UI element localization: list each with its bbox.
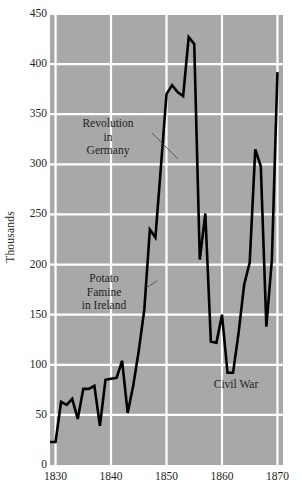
x-axis-tick-labels: 18301840185018601870 <box>0 471 302 491</box>
annotation-civil-war: Civil War <box>196 378 276 392</box>
x-axis-tick-label: 1870 <box>255 471 299 483</box>
annotation-line: in <box>62 131 154 145</box>
immigration-line-chart: Thousands 050100150200250300350400450 18… <box>0 0 302 501</box>
plot-area <box>0 0 302 501</box>
x-axis-tick-label: 1840 <box>89 471 133 483</box>
annotation-line: Germany <box>62 144 154 158</box>
x-axis-tick-label: 1830 <box>34 471 78 483</box>
annotation-line: in Ireland <box>58 299 150 313</box>
annotation-line: Civil War <box>196 378 276 392</box>
annotation-line: Famine <box>58 286 150 300</box>
annotation-revolution-in-germany: Revolution in Germany <box>62 117 154 158</box>
x-axis-tick-label: 1850 <box>145 471 189 483</box>
annotation-line: Revolution <box>62 117 154 131</box>
annotation-potato-famine-in-ireland: Potato Famine in Ireland <box>58 272 150 313</box>
annotation-line: Potato <box>58 272 150 286</box>
x-axis-tick-label: 1860 <box>200 471 244 483</box>
